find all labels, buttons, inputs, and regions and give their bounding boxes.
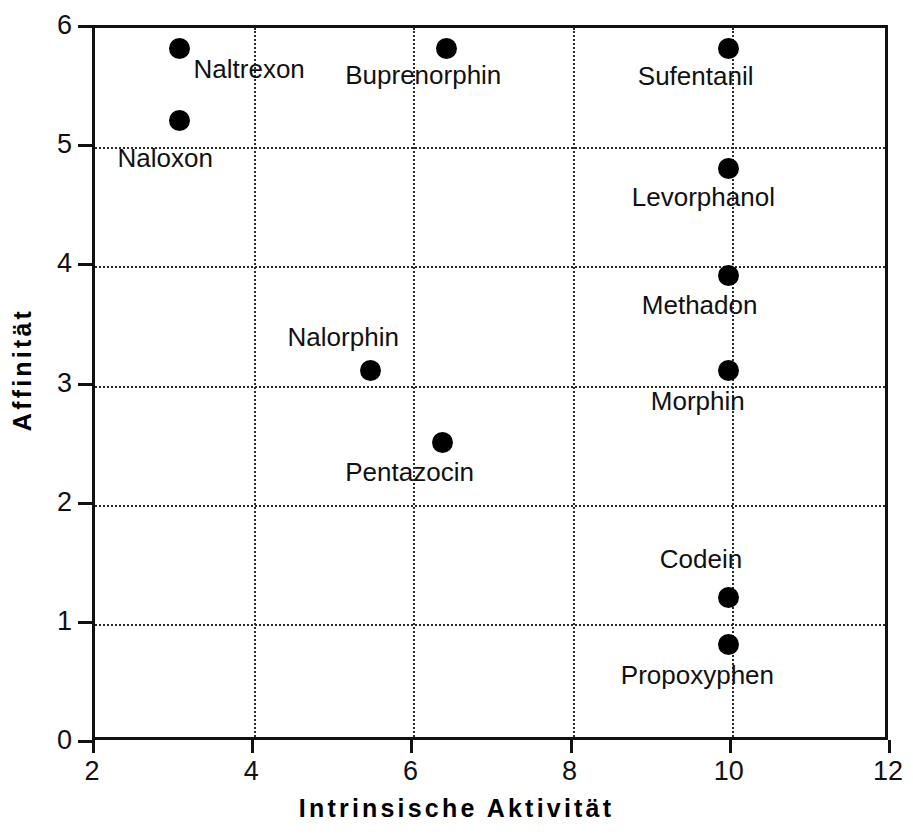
- y-axis-tick-label: 3: [24, 368, 72, 398]
- y-axis-tick-label: 4: [24, 248, 72, 278]
- data-point: [436, 38, 457, 59]
- gridline-horizontal: [95, 147, 885, 149]
- data-point: [718, 158, 739, 179]
- y-axis-tick-label: 2: [24, 487, 72, 517]
- plot-area: [92, 25, 888, 740]
- y-axis-tick-label: 6: [24, 10, 72, 40]
- gridline-horizontal: [95, 266, 885, 268]
- x-axis-tick: [410, 740, 413, 753]
- data-point-label: Pentazocin: [345, 458, 474, 486]
- y-axis-tick: [78, 263, 92, 266]
- data-point-label: Naltrexon: [194, 55, 305, 83]
- y-axis-tick: [78, 144, 92, 147]
- y-axis-tick-label: 1: [24, 606, 72, 636]
- data-point-label: Naloxon: [118, 144, 213, 172]
- scatter-plot-figure: Affinität Intrinsische Aktivität 2468101…: [0, 0, 913, 836]
- data-point: [718, 265, 739, 286]
- gridline-horizontal: [95, 624, 885, 626]
- y-axis-tick: [78, 502, 92, 505]
- data-point-label: Morphin: [651, 387, 745, 415]
- x-axis-tick: [251, 740, 254, 753]
- x-axis-tick: [92, 740, 95, 753]
- gridline-vertical: [732, 28, 734, 737]
- gridline-vertical: [573, 28, 575, 737]
- x-axis-tick-label: 10: [699, 755, 759, 787]
- y-axis-tick: [78, 25, 92, 28]
- y-axis-tick: [78, 621, 92, 624]
- x-axis-title: Intrinsische Aktivität: [0, 794, 913, 823]
- x-axis-tick-label: 12: [858, 755, 913, 787]
- y-axis-tick: [78, 383, 92, 386]
- x-axis-tick-label: 2: [62, 755, 122, 787]
- data-point-label: Buprenorphin: [345, 61, 501, 89]
- x-axis-tick: [729, 740, 732, 753]
- x-axis-tick-label: 6: [380, 755, 440, 787]
- data-point-label: Codein: [660, 545, 742, 573]
- data-point-label: Levorphanol: [632, 183, 775, 211]
- y-axis-tick: [78, 740, 92, 743]
- data-point: [169, 110, 190, 131]
- y-axis-tick-label: 5: [24, 129, 72, 159]
- data-point-label: Propoxyphen: [621, 661, 774, 689]
- x-axis-tick: [888, 740, 891, 753]
- x-axis-tick: [570, 740, 573, 753]
- gridline-vertical: [254, 28, 256, 737]
- gridline-vertical: [413, 28, 415, 737]
- y-axis-tick-label: 0: [24, 725, 72, 755]
- data-point-label: Methadon: [642, 291, 758, 319]
- data-point: [432, 432, 453, 453]
- data-point: [718, 587, 739, 608]
- data-point-label: Sufentanil: [638, 62, 754, 90]
- gridline-horizontal: [95, 505, 885, 507]
- x-axis-tick-label: 8: [540, 755, 600, 787]
- data-point-label: Nalorphin: [288, 323, 399, 351]
- x-axis-tick-label: 4: [221, 755, 281, 787]
- gridline-horizontal: [95, 386, 885, 388]
